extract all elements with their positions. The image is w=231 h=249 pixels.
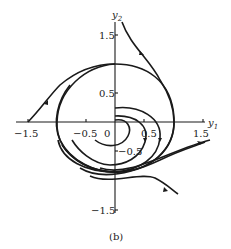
x-tick-label: −0.5 — [73, 128, 97, 139]
y-tick-label: 0.5 — [99, 88, 115, 99]
y-tick-label: −1.5 — [91, 205, 115, 216]
x-tick-label: 0.5 — [141, 128, 157, 139]
phase-portrait-figure: −1.5 −0.5 0 0.5 1.5 1.5 0.5 −0.5 −1.5 y1… — [0, 0, 231, 249]
x-tick-label: 0 — [104, 128, 110, 139]
trajectories — [28, 22, 210, 194]
y-axis-label: y2 — [111, 9, 123, 23]
x-tick-label: −1.5 — [14, 128, 38, 139]
y-tick-label: 1.5 — [99, 30, 115, 41]
figure-caption: (b) — [109, 231, 123, 242]
y-tick-label: −0.5 — [118, 146, 142, 157]
x-tick-label: 1.5 — [193, 128, 209, 139]
